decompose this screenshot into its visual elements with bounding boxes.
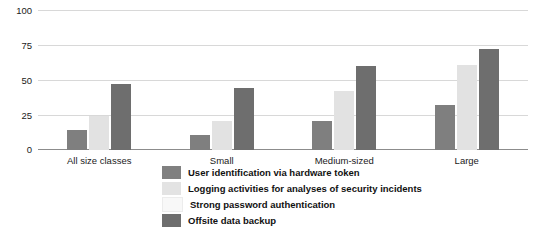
legend-label-hardware-token: User identification via hardware token bbox=[188, 166, 360, 179]
legend-item-logging: Logging activities for analyses of secur… bbox=[162, 182, 422, 195]
bar-group-large: Large bbox=[406, 10, 529, 150]
bar-all-size-classes-hardware-token bbox=[67, 130, 87, 150]
bar-large-offsite-backup bbox=[479, 49, 499, 150]
legend-swatch-hardware-token bbox=[162, 166, 181, 179]
bar-group-medium-sized: Medium-sized bbox=[283, 10, 406, 150]
bar-small-logging bbox=[212, 121, 232, 150]
plot-area: 100 75 50 25 0 All size classes bbox=[38, 10, 528, 150]
x-tick-label-all-size-classes: All size classes bbox=[38, 155, 161, 166]
y-tick-label-50: 50 bbox=[21, 75, 32, 86]
legend-label-logging: Logging activities for analyses of secur… bbox=[188, 182, 422, 195]
x-tick-label-medium-sized: Medium-sized bbox=[283, 155, 406, 166]
legend-swatch-password bbox=[162, 197, 183, 212]
legend-item-hardware-token: User identification via hardware token bbox=[162, 166, 422, 179]
bar-medium-sized-offsite-backup bbox=[356, 66, 376, 150]
x-tick-label-small: Small bbox=[161, 155, 284, 166]
chart-legend: User identification via hardware token L… bbox=[162, 166, 422, 227]
legend-item-offsite-backup: Offsite data backup bbox=[162, 214, 422, 227]
legend-item-password: Strong password authentication bbox=[162, 198, 422, 211]
bar-chart: 100 75 50 25 0 All size classes bbox=[0, 0, 538, 238]
bar-all-size-classes-logging bbox=[89, 116, 109, 150]
y-tick-label-100: 100 bbox=[16, 5, 32, 16]
y-tick-label-25: 25 bbox=[21, 110, 32, 121]
bar-medium-sized-logging bbox=[334, 91, 354, 150]
bar-group-all-size-classes: All size classes bbox=[38, 10, 161, 150]
legend-swatch-logging bbox=[162, 182, 181, 195]
x-tick-label-large: Large bbox=[406, 155, 529, 166]
bar-small-offsite-backup bbox=[234, 88, 254, 150]
bar-medium-sized-hardware-token bbox=[312, 121, 332, 150]
legend-label-password: Strong password authentication bbox=[190, 198, 335, 211]
bar-small-hardware-token bbox=[190, 135, 210, 150]
bar-all-size-classes-offsite-backup bbox=[111, 84, 131, 150]
bar-large-hardware-token bbox=[435, 105, 455, 150]
y-tick-label-75: 75 bbox=[21, 40, 32, 51]
legend-swatch-offsite-backup bbox=[162, 214, 181, 227]
y-tick-label-0: 0 bbox=[27, 144, 32, 155]
legend-label-offsite-backup: Offsite data backup bbox=[188, 214, 276, 227]
bar-large-logging bbox=[457, 65, 477, 150]
bar-group-small: Small bbox=[161, 10, 284, 150]
bar-groups: All size classes Small Medium-sized bbox=[38, 10, 528, 150]
